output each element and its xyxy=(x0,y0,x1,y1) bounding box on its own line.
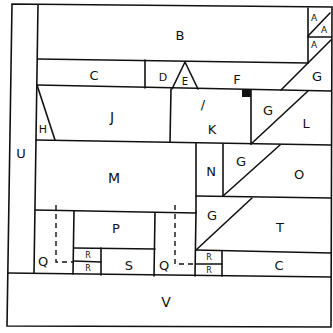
region-m-label: M xyxy=(108,170,120,186)
region-g4-label: G xyxy=(207,208,217,223)
region-u-label: U xyxy=(16,146,26,161)
region-b-label: B xyxy=(176,28,185,43)
region-i-label: / xyxy=(201,97,206,112)
region-r2-label: R xyxy=(85,264,91,273)
marker-square xyxy=(242,90,251,97)
region-h-label: H xyxy=(39,123,47,136)
region-r4-label: R xyxy=(206,266,212,275)
region-l-label: L xyxy=(302,116,310,131)
region-q1-label: Q xyxy=(38,254,48,269)
region-a1-label: A xyxy=(311,13,318,23)
region-e-label: E xyxy=(182,76,188,87)
region-c-top-label: C xyxy=(89,68,98,83)
region-r3-label: R xyxy=(206,253,212,262)
region-g2-label: G xyxy=(263,103,273,118)
region-g3-label: G xyxy=(236,154,246,169)
region-o-label: O xyxy=(294,167,304,182)
region-t-label: T xyxy=(275,220,284,235)
outlines xyxy=(7,4,332,327)
region-j-label: J xyxy=(109,109,114,125)
region-q2-label: Q xyxy=(159,258,169,273)
region-a2-label: A xyxy=(321,25,328,35)
region-d-label: D xyxy=(159,71,167,84)
region-p-label: P xyxy=(112,221,120,236)
region-labels: BAAACDEFGJH/KGLUMNGOGTPQRRSQRRCV xyxy=(16,13,328,310)
region-n-label: N xyxy=(206,164,216,179)
region-f-label: F xyxy=(233,72,240,87)
dashed-guides xyxy=(56,205,195,264)
region-g1-label: G xyxy=(312,69,322,84)
region-c-bottom-label: C xyxy=(274,258,283,273)
region-a3-label: A xyxy=(311,40,318,50)
region-r1-label: R xyxy=(85,251,91,260)
region-k-label: K xyxy=(208,122,217,137)
region-s-label: S xyxy=(125,258,133,273)
region-v-label: V xyxy=(161,294,171,310)
block-diagram: BAAACDEFGJH/KGLUMNGOGTPQRRSQRRCV xyxy=(0,0,333,333)
